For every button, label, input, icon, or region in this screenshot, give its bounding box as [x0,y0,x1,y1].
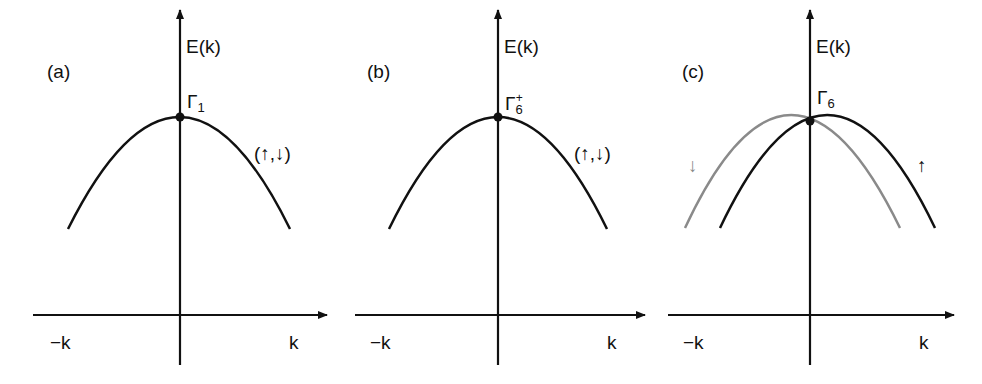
panel-b-x-pos-label: k [607,333,617,352]
panel-a-graphics [33,10,327,365]
diagram-graphics [0,0,982,384]
panel-a-gamma-label: Γ1 [187,92,205,114]
panel-a-spin-label: (↑,↓) [254,144,291,163]
panel-c-x-neg-label: −k [683,333,704,352]
panel-b-tag: (b) [367,62,390,81]
spin-down-label: ↓ [688,156,698,175]
gamma-point [176,113,185,122]
panel-c-tag: (c) [682,62,704,81]
band-structure-figure: (a) E(k) Γ1 (↑,↓) −k k (b) E(k) Γ6+ (↑,↓… [0,0,982,384]
spin-up-curve [720,115,935,228]
panel-b-gamma-label: Γ6+ [505,92,524,116]
spin-up-label: ↑ [917,156,927,175]
panel-c-graphics [668,10,954,365]
panel-b-graphics [355,10,645,365]
gamma-point [806,117,815,126]
panel-b-spin-label: (↑,↓) [574,144,611,163]
panel-a-x-neg-label: −k [50,333,71,352]
gamma-point [494,113,503,122]
panel-c-y-label: E(k) [816,37,851,56]
panel-c-gamma-label: Γ6 [817,88,835,110]
panel-a-x-pos-label: k [289,333,299,352]
panel-c-x-pos-label: k [919,333,929,352]
panel-b-y-label: E(k) [504,37,539,56]
panel-a-y-label: E(k) [186,37,221,56]
panel-a-tag: (a) [47,62,70,81]
panel-b-x-neg-label: −k [370,333,391,352]
